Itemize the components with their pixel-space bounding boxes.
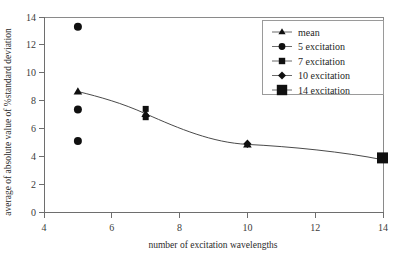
y-tick-label-2: 2 xyxy=(31,179,36,190)
legend-label-7-excitation: 7 excitation xyxy=(298,56,345,67)
y-tick-label-12: 12 xyxy=(26,39,36,50)
marker-mean-2 xyxy=(141,110,150,117)
x-tick-label-12: 12 xyxy=(310,222,320,233)
legend-label-10-excitation: 10 excitation xyxy=(298,70,350,81)
x-axis-title: number of excitation wavelengths xyxy=(148,240,277,250)
y-tick-label-14: 14 xyxy=(26,12,36,23)
y-tick-label-6: 6 xyxy=(31,123,36,134)
legend-marker-14-excitation xyxy=(277,85,287,95)
y-axis-ticks xyxy=(39,17,44,212)
mean-series-line xyxy=(78,92,383,160)
legend-label-14-excitation: 14 excitation xyxy=(298,85,350,96)
y-tick-label-0: 0 xyxy=(31,207,36,218)
legend-marker-7-excitation xyxy=(279,58,285,64)
chart-page: 0 2 4 6 8 10 12 14 4 6 8 10 12 14 number… xyxy=(0,0,403,262)
x-tick-label-14: 14 xyxy=(378,222,388,233)
x-axis-ticks xyxy=(44,212,383,218)
chart-legend: mean 5 excitation 7 excitation 10 excita… xyxy=(262,20,383,96)
marker-5-excitation-2 xyxy=(74,106,82,114)
y-tick-label-10: 10 xyxy=(26,67,36,78)
y-axis-title: average of absolute value of %standard d… xyxy=(3,28,13,216)
legend-label-mean: mean xyxy=(298,27,320,38)
legend-marker-5-excitation xyxy=(279,43,286,50)
legend-label-5-excitation: 5 excitation xyxy=(298,41,345,52)
marker-5-excitation-3 xyxy=(74,137,82,145)
x-tick-label-4: 4 xyxy=(42,222,47,233)
y-tick-label-4: 4 xyxy=(31,151,36,162)
x-tick-label-6: 6 xyxy=(109,222,114,233)
scatter-chart: 0 2 4 6 8 10 12 14 4 6 8 10 12 14 number… xyxy=(0,0,403,262)
marker-mean-1 xyxy=(74,87,83,94)
marker-5-excitation-1 xyxy=(74,23,82,31)
x-tick-label-10: 10 xyxy=(242,222,252,233)
x-tick-label-8: 8 xyxy=(177,222,182,233)
y-tick-label-8: 8 xyxy=(31,95,36,106)
